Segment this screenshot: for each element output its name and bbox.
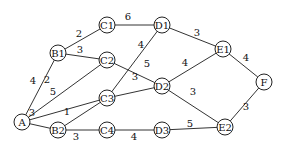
edge-weight-label: 4 [30, 75, 36, 86]
edge-d2-e1 [162, 49, 223, 86]
node-c4: C4 [99, 122, 115, 138]
node-d3: D3 [154, 122, 170, 138]
node-d2: D2 [154, 78, 170, 94]
node-e2: E2 [217, 119, 233, 135]
node-label: D1 [155, 20, 169, 31]
node-f: F [256, 74, 272, 90]
edge-weight-label: 3 [77, 44, 83, 55]
node-b1: B1 [50, 45, 66, 61]
node-label: F [261, 77, 268, 88]
edge-weight-label: 3 [194, 27, 200, 38]
edge-weight-label: 4 [182, 57, 188, 68]
edge-weight-label: 5 [187, 118, 193, 129]
node-e1: E1 [215, 41, 231, 57]
node-label: C4 [100, 125, 114, 136]
edge-weight-label: 3 [73, 131, 79, 142]
edge-d3-e2 [162, 127, 225, 130]
edge-weight-label: 3 [29, 107, 35, 118]
edge-weight-label: 4 [131, 131, 137, 142]
node-d1: D1 [154, 17, 170, 33]
edge-weight-label: 4 [138, 39, 144, 50]
edge-weight-label: 6 [125, 11, 131, 22]
node-a: A [14, 114, 30, 130]
node-c3: C3 [99, 90, 115, 106]
node-label: B1 [51, 48, 65, 59]
node-label: D2 [155, 81, 169, 92]
edge-weight-label: 1 [64, 106, 70, 117]
edge-weight-label: 3 [190, 86, 196, 97]
node-label: E2 [218, 122, 232, 133]
node-label: D3 [155, 125, 169, 136]
node-label: B2 [51, 125, 65, 136]
edge-weight-label: 2 [76, 28, 82, 39]
graph-diagram: 4253236543134343543 AB1B2C1C2C3C4D1D2D3E… [0, 0, 289, 151]
node-label: A [17, 117, 26, 128]
weight-labels-layer: 4253236543134343543 [29, 11, 249, 142]
node-label: E1 [216, 44, 230, 55]
node-b2: B2 [50, 122, 66, 138]
node-label: C1 [100, 20, 114, 31]
node-label: C2 [100, 55, 114, 66]
node-label: C3 [100, 93, 114, 104]
edge-weight-label: 4 [243, 52, 249, 63]
edge-d1-e1 [162, 25, 223, 49]
edge-weight-label: 3 [132, 71, 138, 82]
edge-weight-label: 2 [44, 74, 50, 85]
node-c1: C1 [99, 17, 115, 33]
edge-weight-label: 5 [144, 58, 150, 69]
edge-weight-label: 3 [243, 101, 249, 112]
edge-weight-label: 5 [50, 86, 56, 97]
node-c2: C2 [99, 52, 115, 68]
